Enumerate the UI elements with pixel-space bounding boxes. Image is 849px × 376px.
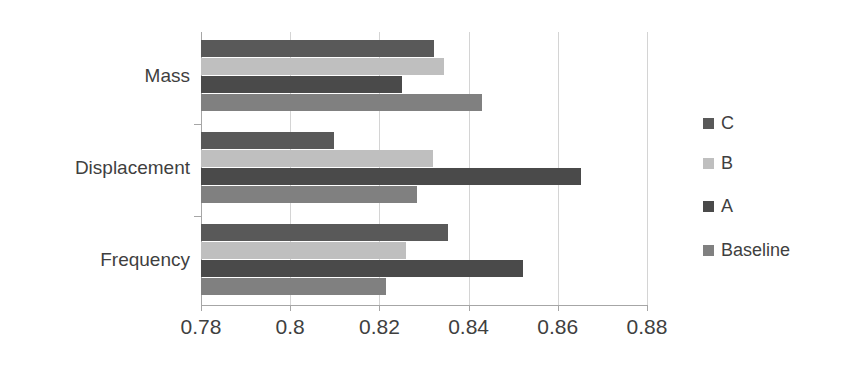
legend-entry-a[interactable]: A [703,197,733,215]
legend-label: C [721,114,734,132]
bar [201,224,448,241]
legend-entry-c[interactable]: C [703,114,734,132]
x-axis-tick-label: 0.84 [429,315,509,339]
bar [201,94,482,111]
bar [201,150,433,167]
bar [201,40,434,57]
bar [201,186,417,203]
plot-area [201,32,647,305]
chart-screenshot: 0.780.80.820.840.860.88 FrequencyDisplac… [0,0,849,376]
y-axis-tick [194,124,201,125]
x-axis-tick-label: 0.88 [607,315,687,339]
legend-swatch-icon [703,118,714,129]
bar [201,76,402,93]
legend-label: B [721,154,733,172]
bar [201,132,334,149]
x-axis-tick-label: 0.8 [250,315,330,339]
bar [201,168,581,185]
category-label-mass: Mass [145,65,190,87]
x-axis-tick-label: 0.78 [161,315,241,339]
bar [201,278,386,295]
bar [201,260,523,277]
gridline [647,32,648,305]
bar [201,242,406,259]
y-axis-tick [194,216,201,217]
category-label-displacement: Displacement [75,157,190,179]
legend-swatch-icon [703,158,714,169]
bar [201,58,444,75]
legend-swatch-icon [703,245,714,256]
legend-entry-b[interactable]: B [703,154,733,172]
legend-swatch-icon [703,201,714,212]
x-axis-line [201,305,648,306]
legend-label: A [721,197,733,215]
legend-entry-baseline[interactable]: Baseline [703,241,790,259]
x-axis-tick-label: 0.82 [339,315,419,339]
x-axis-tick-label: 0.86 [518,315,598,339]
legend-label: Baseline [721,241,790,259]
category-label-frequency: Frequency [100,249,190,271]
